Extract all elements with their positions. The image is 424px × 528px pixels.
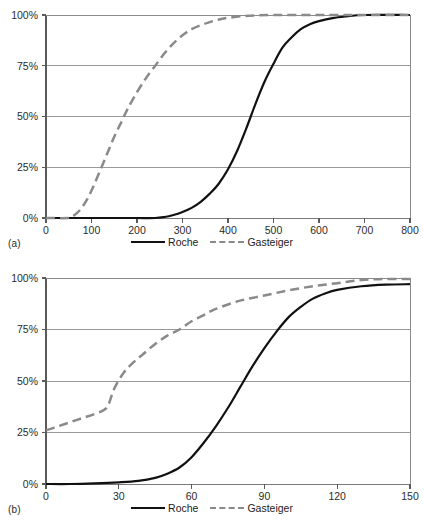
- line-dashed-icon: [210, 507, 244, 509]
- x-tick-label: 800: [401, 224, 419, 236]
- legend-label-gasteiger: Gasteiger: [247, 236, 293, 248]
- chart-panel-a: 0%25%50%75%100%0100200300400500600700800…: [0, 0, 424, 264]
- line-solid-icon: [131, 241, 165, 243]
- y-tick-label: 100%: [11, 9, 38, 21]
- legend-label-roche: Roche: [168, 502, 198, 514]
- x-tick-label: 200: [128, 224, 146, 236]
- legend-entry-roche-b: Roche: [131, 502, 198, 514]
- line-dashed-icon: [210, 241, 244, 243]
- legend-label-roche: Roche: [168, 236, 198, 248]
- x-tick-label: 30: [113, 490, 125, 502]
- series-line-roche: [46, 284, 410, 484]
- legend-entry-gasteiger-b: Gasteiger: [210, 502, 293, 514]
- y-tick-label: 0%: [23, 212, 38, 224]
- legend-label-gasteiger: Gasteiger: [247, 502, 293, 514]
- x-tick-label: 300: [174, 224, 192, 236]
- chart-b-canvas: 0%25%50%75%100%0306090120150: [0, 264, 424, 528]
- figure-root: 0%25%50%75%100%0100200300400500600700800…: [0, 0, 424, 528]
- chart-panel-b: 0%25%50%75%100%0306090120150 (b) Roche G…: [0, 264, 424, 528]
- x-tick-label: 0: [43, 490, 49, 502]
- chart-b-legend: Roche Gasteiger: [0, 502, 424, 514]
- chart-a-canvas: 0%25%50%75%100%0100200300400500600700800: [0, 0, 424, 264]
- legend-entry-roche-a: Roche: [131, 236, 198, 248]
- x-tick-label: 0: [43, 224, 49, 236]
- y-tick-label: 25%: [17, 426, 38, 438]
- x-tick-label: 90: [259, 490, 271, 502]
- x-tick-label: 150: [401, 490, 419, 502]
- x-tick-label: 120: [328, 490, 346, 502]
- legend-entry-gasteiger-a: Gasteiger: [210, 236, 293, 248]
- y-tick-label: 100%: [11, 272, 38, 284]
- y-tick-label: 0%: [23, 478, 38, 490]
- x-tick-label: 100: [83, 224, 101, 236]
- x-tick-label: 400: [219, 224, 237, 236]
- x-tick-label: 600: [310, 224, 328, 236]
- x-tick-label: 60: [186, 490, 198, 502]
- y-tick-label: 75%: [17, 323, 38, 335]
- y-tick-label: 75%: [17, 60, 38, 72]
- chart-a-legend: Roche Gasteiger: [0, 236, 424, 248]
- y-tick-label: 50%: [17, 375, 38, 387]
- y-tick-label: 25%: [17, 161, 38, 173]
- y-tick-label: 50%: [17, 110, 38, 122]
- line-solid-icon: [131, 507, 165, 509]
- x-tick-label: 700: [356, 224, 374, 236]
- x-tick-label: 500: [265, 224, 283, 236]
